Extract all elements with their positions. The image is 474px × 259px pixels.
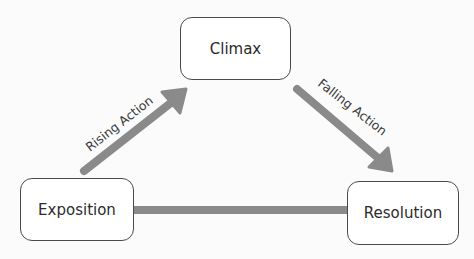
climax-label: Climax: [210, 40, 262, 58]
exposition-node: Exposition: [20, 178, 134, 241]
climax-node: Climax: [180, 17, 291, 80]
resolution-node: Resolution: [347, 181, 459, 245]
resolution-label: Resolution: [364, 204, 442, 222]
falling-action-label: Falling Action: [315, 76, 390, 139]
exposition-label: Exposition: [38, 201, 116, 219]
